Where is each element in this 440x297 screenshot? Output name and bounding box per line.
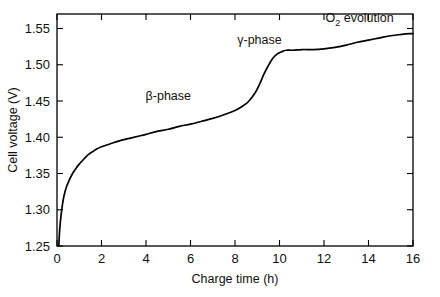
y-tick-label-1.55: 1.55 <box>25 21 50 36</box>
x-axis-tick-labels: 0246810121416 <box>53 251 420 266</box>
x-tick-label-12: 12 <box>317 251 331 266</box>
y-tick-label-1.50: 1.50 <box>25 57 50 72</box>
x-tick-label-0: 0 <box>53 251 60 266</box>
data-series-charge-curve <box>59 34 413 246</box>
x-axis-ticks <box>57 14 413 246</box>
x-tick-label-10: 10 <box>272 251 286 266</box>
y-axis-ticks <box>57 29 413 247</box>
x-tick-label-2: 2 <box>98 251 105 266</box>
o2-evolution-tail-text: evolution <box>340 11 394 25</box>
x-tick-label-6: 6 <box>187 251 194 266</box>
y-tick-label-1.45: 1.45 <box>25 94 50 109</box>
x-tick-label-16: 16 <box>406 251 420 266</box>
y-axis-tick-labels: 1.251.301.351.401.451.501.55 <box>25 21 50 254</box>
x-axis-title: Charge time (h) <box>192 272 279 286</box>
o2-evolution-element-text: O <box>325 11 335 25</box>
y-tick-label-1.30: 1.30 <box>25 202 50 217</box>
beta-phase-annotation: β-phase <box>146 89 191 103</box>
chart-figure: 0246810121416 1.251.301.351.401.451.501.… <box>0 0 440 297</box>
y-axis-title: Cell voltage (V) <box>6 87 20 172</box>
y-tick-label-1.40: 1.40 <box>25 130 50 145</box>
x-tick-label-8: 8 <box>231 251 238 266</box>
plot-frame <box>57 14 413 246</box>
chart-plot-area: 0246810121416 1.251.301.351.401.451.501.… <box>0 0 440 297</box>
y-tick-label-1.25: 1.25 <box>25 239 50 254</box>
x-tick-label-14: 14 <box>361 251 375 266</box>
x-tick-label-4: 4 <box>142 251 149 266</box>
gamma-phase-annotation: γ-phase <box>237 33 282 47</box>
y-tick-label-1.35: 1.35 <box>25 166 50 181</box>
